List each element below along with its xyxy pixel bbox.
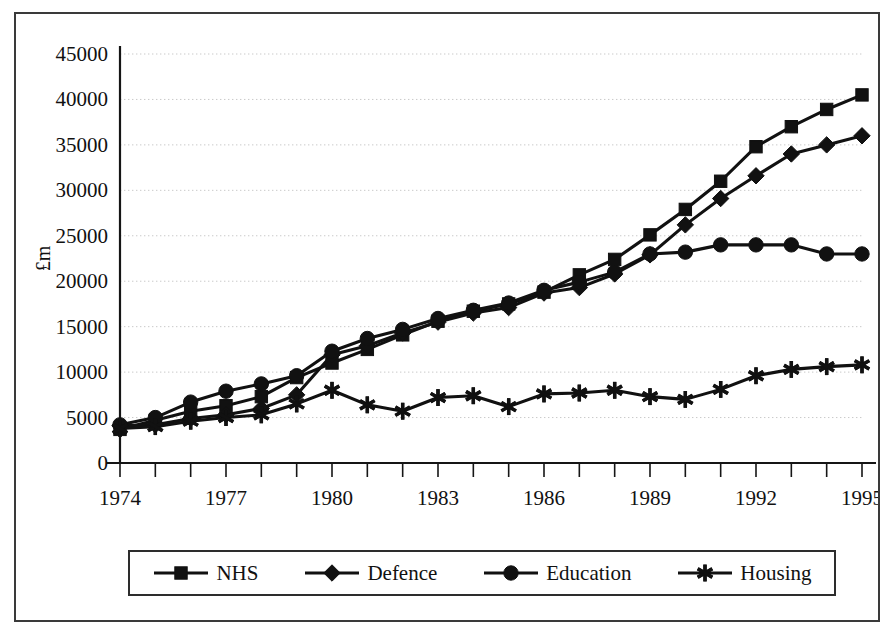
data-point-marker-circle bbox=[784, 238, 798, 252]
legend-item-education[interactable]: Education bbox=[478, 561, 635, 586]
data-point-marker-asterisk bbox=[325, 382, 340, 399]
line-chart: 0500010000150002000025000300003500040000… bbox=[16, 14, 878, 620]
data-point-marker-circle bbox=[431, 311, 445, 325]
y-axis-tick-label: 30000 bbox=[56, 178, 109, 202]
data-point-marker-diamond bbox=[854, 128, 870, 144]
data-point-marker-circle bbox=[289, 369, 303, 383]
legend-label: NHS bbox=[216, 561, 258, 586]
legend-marker-diamond-icon bbox=[303, 562, 361, 584]
data-point-marker-square bbox=[750, 141, 762, 153]
chart-legend: NHSDefenceEducationHousing bbox=[128, 550, 836, 596]
data-point-marker-circle bbox=[749, 238, 763, 252]
data-point-marker-circle bbox=[819, 247, 833, 261]
x-axis-tick-label: 1992 bbox=[735, 486, 777, 510]
legend-marker-asterisk-icon bbox=[676, 562, 734, 584]
y-axis-tick-label: 45000 bbox=[56, 42, 109, 66]
data-point-marker-circle bbox=[501, 296, 515, 310]
x-axis-tick-label: 1983 bbox=[417, 486, 459, 510]
data-point-marker-circle bbox=[572, 275, 586, 289]
data-point-marker-circle bbox=[607, 265, 621, 279]
legend-label: Education bbox=[546, 561, 631, 586]
data-point-marker-circle bbox=[466, 303, 480, 317]
data-point-marker-square bbox=[175, 567, 187, 579]
y-axis-title: £m bbox=[32, 245, 54, 271]
data-point-marker-circle bbox=[325, 344, 339, 358]
y-axis-tick-label: 25000 bbox=[56, 224, 109, 248]
legend-marker-square-icon bbox=[152, 562, 210, 584]
data-point-marker-circle bbox=[537, 283, 551, 297]
y-axis-tick-label: 15000 bbox=[56, 315, 109, 339]
data-point-marker-diamond bbox=[748, 168, 764, 184]
data-point-marker-diamond bbox=[783, 146, 799, 162]
legend-label: Housing bbox=[740, 561, 811, 586]
data-point-marker-square bbox=[679, 203, 691, 215]
legend-marker-circle-icon bbox=[482, 562, 540, 584]
data-point-marker-circle bbox=[183, 395, 197, 409]
y-axis-tick-label: 5000 bbox=[66, 406, 108, 430]
x-axis-tick-label: 1995 bbox=[841, 486, 878, 510]
y-axis-tick-label: 40000 bbox=[56, 87, 109, 111]
chart-plot-area: 0500010000150002000025000300003500040000… bbox=[16, 14, 878, 620]
data-point-marker-square bbox=[856, 89, 868, 101]
y-axis-tick-label: 10000 bbox=[56, 360, 109, 384]
data-point-marker-square bbox=[714, 175, 726, 187]
legend-item-nhs[interactable]: NHS bbox=[148, 561, 262, 586]
x-axis-tick-label: 1974 bbox=[99, 486, 142, 510]
legend-item-defence[interactable]: Defence bbox=[299, 561, 441, 586]
data-point-marker-circle bbox=[713, 238, 727, 252]
data-point-marker-circle bbox=[643, 247, 657, 261]
data-point-marker-circle bbox=[219, 384, 233, 398]
y-axis-tick-label: 35000 bbox=[56, 133, 109, 157]
x-axis-tick-label: 1989 bbox=[629, 486, 671, 510]
data-point-marker-circle bbox=[855, 247, 869, 261]
y-axis-tick-label: 20000 bbox=[56, 269, 109, 293]
data-point-marker-circle bbox=[254, 377, 268, 391]
data-point-marker-circle bbox=[504, 566, 518, 580]
series-line bbox=[120, 245, 862, 425]
data-point-marker-square bbox=[608, 253, 620, 265]
data-point-marker-square bbox=[785, 121, 797, 133]
chart-frame: 0500010000150002000025000300003500040000… bbox=[14, 12, 880, 622]
data-point-marker-circle bbox=[360, 331, 374, 345]
data-point-marker-circle bbox=[678, 245, 692, 259]
x-axis-tick-label: 1980 bbox=[311, 486, 353, 510]
x-axis-tick-label: 1986 bbox=[523, 486, 565, 510]
x-axis-tick-label: 1977 bbox=[205, 486, 247, 510]
data-point-marker-diamond bbox=[324, 565, 340, 581]
data-point-marker-circle bbox=[395, 322, 409, 336]
data-point-marker-square bbox=[644, 229, 656, 241]
legend-item-housing[interactable]: Housing bbox=[672, 561, 815, 586]
legend-label: Defence bbox=[367, 561, 437, 586]
data-point-marker-square bbox=[820, 103, 832, 115]
data-point-marker-diamond bbox=[818, 137, 834, 153]
